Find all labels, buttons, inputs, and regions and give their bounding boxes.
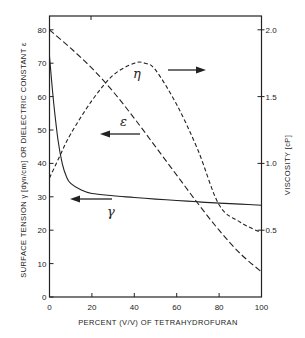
- gamma-curve: [50, 57, 262, 206]
- x-tick-label: 80: [215, 303, 224, 312]
- y-axis-right-title: VISCOSITY [cP]: [283, 135, 292, 195]
- x-axis-ticks: 020406080100: [47, 293, 268, 312]
- y-tick-label: 50: [38, 126, 47, 135]
- eta-label: η: [133, 66, 141, 81]
- y-tick-label: 80: [38, 26, 47, 35]
- x-axis-title: PERCENT (V/V) OF TETRAHYDROFURAN: [78, 318, 238, 327]
- x-tick-label: 0: [47, 303, 52, 312]
- eta-arrow-icon: [168, 67, 206, 74]
- y-tick-label: 60: [38, 93, 47, 102]
- y-tick-label: 20: [38, 226, 47, 235]
- epsilon-label: ε: [120, 114, 127, 129]
- y-axis-right-ticks: 0.51.01.52.0: [258, 26, 278, 235]
- plot-frame: [50, 16, 262, 297]
- epsilon-arrow-icon: [100, 131, 140, 138]
- x-tick-label: 40: [130, 303, 139, 312]
- x-tick-label: 20: [87, 303, 96, 312]
- x-tick-label: 100: [255, 303, 269, 312]
- y-tick-label: 0: [42, 293, 47, 302]
- x-tick-label: 60: [172, 303, 181, 312]
- y2-tick-label: 1.0: [266, 159, 278, 168]
- y-axis-left-title: SURFACE TENSION γ [dyn/cm] OR DIELECTRIC…: [19, 42, 28, 278]
- y2-tick-label: 0.5: [266, 226, 278, 235]
- y-tick-label: 30: [38, 193, 47, 202]
- series-layer: [50, 30, 262, 272]
- y2-tick-label: 2.0: [266, 26, 278, 35]
- y-tick-label: 10: [38, 260, 47, 269]
- y-tick-label: 70: [38, 59, 47, 68]
- gamma-label: γ: [107, 204, 115, 219]
- y-tick-label: 40: [38, 159, 47, 168]
- y2-tick-label: 1.5: [266, 93, 278, 102]
- gamma-arrow-icon: [70, 196, 112, 203]
- epsilon-curve: [50, 30, 262, 272]
- chart: 020406080100 01020304050607080 0.51.01.5…: [0, 0, 305, 338]
- y-axis-left-ticks: 01020304050607080: [38, 26, 54, 302]
